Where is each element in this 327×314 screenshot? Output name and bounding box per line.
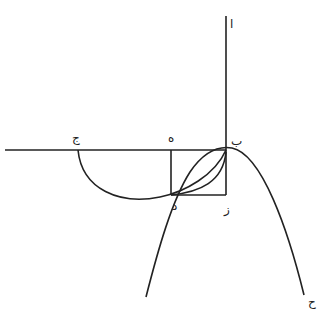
parabola-curve [146,148,304,297]
label-hha: ح [308,295,316,309]
inner-curve-ba-dal [171,152,226,195]
label-dal: د [172,199,177,213]
label-ba: ب [231,134,242,148]
diagram-canvas: ا ب ج ه د ز ح [0,0,327,314]
label-alif: ا [230,17,233,31]
label-zay: ز [223,202,230,217]
geometry-figure: ا ب ج ه د ز ح [0,0,327,314]
label-jim: ج [72,131,80,145]
label-ha: ه [168,131,174,145]
